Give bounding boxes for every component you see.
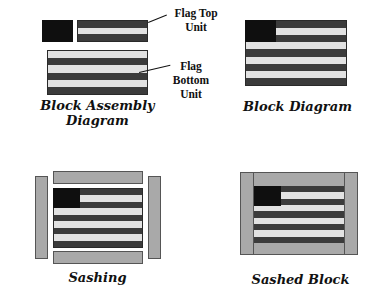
- stripe: [48, 58, 147, 65]
- stripe: [48, 51, 147, 58]
- stripe: [78, 34, 147, 41]
- label-line: Unit: [168, 87, 214, 101]
- stripe: [254, 237, 344, 243]
- flag-top-unit: [77, 20, 148, 42]
- stripe: [48, 80, 147, 87]
- stripe: [246, 64, 346, 71]
- flag-canton: [53, 188, 80, 208]
- sashing-caption: Sashing: [40, 270, 155, 285]
- bottom-sash: [53, 251, 143, 264]
- block-assembly-caption: Block Assembly Diagram: [40, 98, 155, 128]
- flag-canton-unit: [42, 20, 73, 42]
- stripe: [54, 241, 142, 247]
- flag-top-unit-label: Flag Top Unit: [166, 6, 226, 34]
- stripe: [48, 87, 147, 94]
- top-sash: [53, 171, 143, 184]
- stripe: [246, 78, 346, 85]
- stripe: [48, 73, 147, 80]
- flag-bottom-unit-label: Flag Bottom Unit: [168, 59, 214, 101]
- stripe: [246, 42, 346, 49]
- label-line: Flag Top: [166, 6, 226, 20]
- left-sash: [35, 176, 48, 259]
- stripe: [246, 71, 346, 78]
- stripe: [78, 21, 147, 28]
- block-diagram-caption: Block Diagram: [240, 99, 355, 114]
- caption-line: Diagram: [40, 113, 155, 128]
- flag-canton: [245, 20, 276, 42]
- right-sash: [148, 176, 161, 259]
- stripe: [246, 49, 346, 56]
- flag-bottom-unit: [47, 50, 148, 95]
- right-sash: [344, 172, 358, 255]
- left-sash: [240, 172, 254, 255]
- stripe: [48, 65, 147, 72]
- sashed-block-caption: Sashed Block: [238, 272, 363, 287]
- leader-line-top: [148, 15, 167, 23]
- flag-canton: [254, 186, 281, 206]
- stripe: [78, 28, 147, 35]
- caption-line: Block Assembly: [40, 98, 155, 113]
- label-line: Flag: [168, 59, 214, 73]
- label-line: Unit: [166, 20, 226, 34]
- stripe: [246, 57, 346, 64]
- label-line: Bottom: [168, 73, 214, 87]
